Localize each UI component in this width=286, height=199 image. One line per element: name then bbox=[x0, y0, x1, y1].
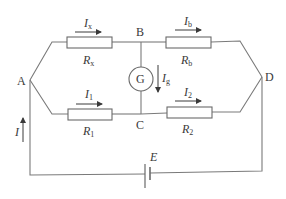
resistor-rb bbox=[166, 37, 211, 48]
current-label-ig: Ig bbox=[161, 71, 170, 86]
resistor-label-rx: Rx bbox=[82, 53, 94, 68]
resistor-r1 bbox=[68, 109, 112, 120]
current-label-i2: I2 bbox=[183, 85, 192, 100]
resistor-label-r2: R2 bbox=[181, 122, 193, 137]
wire-r2-to-d bbox=[212, 77, 262, 112]
wire-a-to-rx bbox=[30, 42, 67, 80]
current-label-i: I bbox=[14, 125, 20, 139]
resistor-label-rb: Rb bbox=[180, 53, 192, 68]
wire-a-to-r1 bbox=[30, 80, 68, 114]
resistor-label-r1: R1 bbox=[82, 124, 94, 139]
circuit-diagram: A B C D G Rx Rb R1 R2 Ix Ib I1 I2 Ig I E bbox=[0, 0, 286, 199]
resistor-r2 bbox=[167, 107, 212, 118]
current-label-i1: I1 bbox=[84, 87, 93, 102]
node-label-d: D bbox=[265, 70, 274, 84]
node-label-b: B bbox=[136, 25, 144, 39]
node-label-c: C bbox=[136, 118, 144, 132]
wire-c-to-r2 bbox=[141, 113, 167, 114]
current-label-ix: Ix bbox=[83, 16, 92, 31]
node-label-a: A bbox=[17, 74, 26, 88]
current-label-ib: Ib bbox=[183, 14, 192, 29]
wire-rb-to-d bbox=[211, 41, 262, 77]
resistor-rx bbox=[67, 37, 112, 48]
battery-label: E bbox=[149, 150, 158, 164]
galvanometer-label: G bbox=[136, 72, 145, 86]
wire-battery-to-d bbox=[150, 77, 262, 173]
